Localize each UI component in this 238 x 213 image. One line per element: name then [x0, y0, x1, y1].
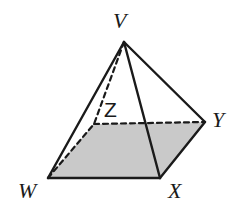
pyramid-diagram: V W X Y Z: [0, 0, 238, 213]
edge-vy-solid: [124, 42, 205, 122]
vertex-label-z: Z: [104, 98, 117, 121]
vertex-label-w: W: [18, 178, 38, 203]
vertex-label-v: V: [113, 8, 129, 33]
vertex-label-x: X: [167, 178, 183, 203]
vertex-label-y: Y: [212, 107, 227, 132]
pyramid-figure: V W X Y Z: [0, 0, 238, 213]
